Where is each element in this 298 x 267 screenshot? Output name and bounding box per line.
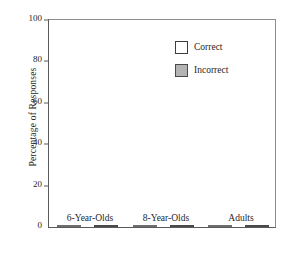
y-tick-20: 20: [25, 185, 49, 186]
plot-area: 100 80 60 40 20 0: [48, 19, 276, 228]
legend-label-incorrect: Incorrect: [194, 65, 228, 75]
y-tick-0: 0: [25, 227, 49, 228]
y-tick-mark-100: [44, 20, 49, 21]
y-tick-60: 60: [25, 102, 49, 103]
y-tick-mark-40: [44, 144, 49, 145]
bar-correct-6-year-olds[interactable]: [57, 225, 81, 227]
y-tick-40: 40: [25, 144, 49, 145]
bar-group-6-year-olds: [57, 20, 125, 227]
bar-incorrect-8-year-olds[interactable]: [170, 225, 194, 227]
y-tick-mark-20: [44, 185, 49, 186]
y-tick-80: 80: [25, 61, 49, 62]
y-tick-100: 100: [25, 20, 49, 21]
y-tick-label-60: 60: [33, 95, 42, 105]
legend-swatch-correct-icon: [175, 41, 188, 54]
legend-swatch-incorrect-icon: [175, 64, 188, 77]
y-tick-mark-60: [44, 102, 49, 103]
bar-chart-figure: Percentage of Responses 100 80 60 40 20 …: [0, 0, 298, 267]
chart-legend: Correct Incorrect: [175, 37, 228, 83]
legend-item-incorrect: Incorrect: [175, 60, 228, 80]
bar-correct-8-year-olds[interactable]: [133, 225, 157, 227]
bar-incorrect-6-year-olds[interactable]: [94, 225, 118, 227]
bar-correct-adults[interactable]: [208, 225, 232, 227]
y-tick-label-80: 80: [33, 54, 42, 64]
x-tick-label-adults: Adults: [191, 213, 291, 223]
y-tick-label-100: 100: [29, 13, 43, 23]
y-tick-label-40: 40: [33, 137, 42, 147]
legend-label-correct: Correct: [194, 42, 223, 52]
legend-item-correct: Correct: [175, 37, 228, 57]
bar-incorrect-adults[interactable]: [245, 225, 269, 227]
y-tick-label-20: 20: [33, 178, 42, 188]
y-tick-mark-80: [44, 61, 49, 62]
